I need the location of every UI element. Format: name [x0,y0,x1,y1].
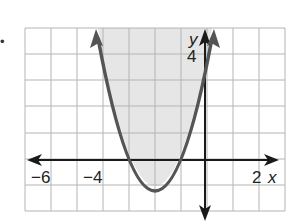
x-label-neg4: −4 [83,168,102,187]
x-label-neg6: −6 [31,168,50,187]
x-label-2: 2 [252,168,261,187]
parabola-graph: −6 −4 2 x y 4 [0,0,295,224]
grid [25,28,285,211]
x-axis-label: x [267,168,277,187]
y-label-4: 4 [187,47,196,66]
